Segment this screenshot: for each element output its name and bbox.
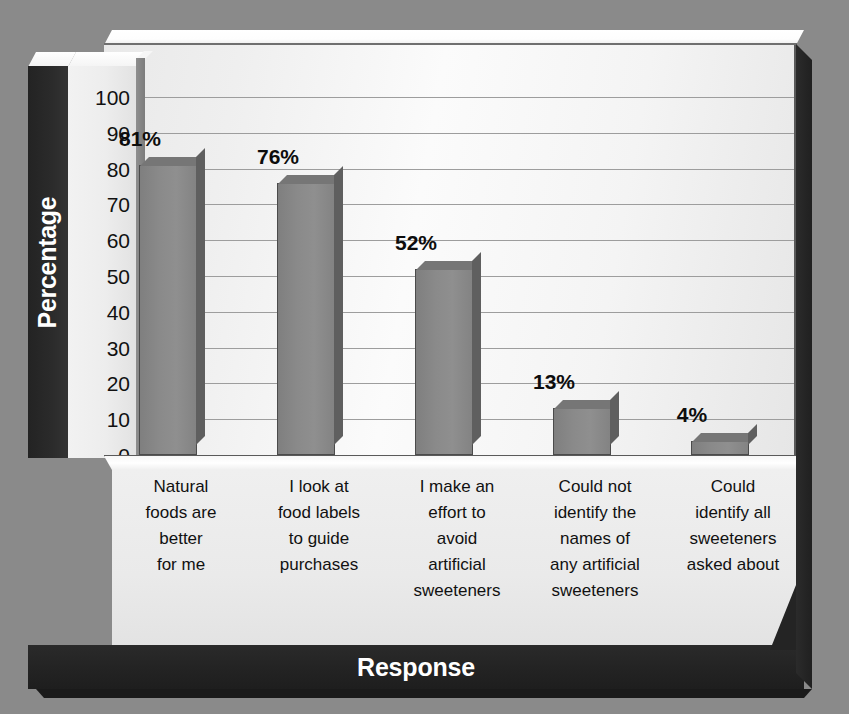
- bar-value-label: 52%: [361, 231, 471, 255]
- category-label-line: better: [112, 526, 250, 552]
- category-label-line: identify the: [526, 500, 664, 526]
- category-label: I make aneffort toavoidartificialsweeten…: [388, 474, 526, 604]
- category-label-line: effort to: [388, 500, 526, 526]
- bar-side-face: [196, 148, 205, 445]
- category-label: Could notidentify thenames ofany artific…: [526, 474, 664, 604]
- category-label-line: asked about: [664, 552, 802, 578]
- category-label-line: Could not: [526, 474, 664, 500]
- bar-value-label: 81%: [85, 127, 195, 151]
- category-label-line: purchases: [250, 552, 388, 578]
- right-side-shadow: [796, 44, 812, 689]
- category-label-line: identify all: [664, 500, 802, 526]
- category-label: Couldidentify allsweetenersasked about: [664, 474, 802, 578]
- bar-value-label: 76%: [223, 145, 333, 169]
- floor-plane: [104, 456, 804, 470]
- category-label-line: artificial: [388, 552, 526, 578]
- category-label-line: food labels: [250, 500, 388, 526]
- y-axis-title-wall-bevel: [28, 52, 76, 67]
- category-label-line: to guide: [250, 526, 388, 552]
- category-label-line: Natural: [112, 474, 250, 500]
- category-label-line: sweeteners: [388, 578, 526, 604]
- category-label-line: any artificial: [526, 552, 664, 578]
- category-label-line: sweeteners: [664, 526, 802, 552]
- bottom-shadow: [36, 689, 812, 698]
- bar-side-face: [472, 252, 481, 445]
- x-axis-title-text: Response: [357, 653, 475, 682]
- bar[interactable]: [139, 165, 197, 455]
- category-label-line: Could: [664, 474, 802, 500]
- bar-value-label: 4%: [637, 403, 747, 427]
- category-label-line: for me: [112, 552, 250, 578]
- category-label-line: I look at: [250, 474, 388, 500]
- bar[interactable]: [415, 269, 473, 455]
- category-label: Naturalfoods arebetterfor me: [112, 474, 250, 578]
- bar-side-face: [610, 391, 619, 445]
- category-label-line: foods are: [112, 500, 250, 526]
- x-axis-title: Response: [28, 645, 804, 689]
- bar-side-face: [748, 424, 757, 445]
- bar-slot: 13%: [526, 44, 664, 456]
- bar[interactable]: [691, 441, 749, 455]
- bar-slot: 4%: [664, 44, 802, 456]
- bar-series: 81%76%52%13%4%: [104, 44, 796, 456]
- category-labels: Naturalfoods arebetterfor meI look atfoo…: [112, 474, 804, 644]
- y-axis-title-text: Percentage: [34, 196, 63, 328]
- category-label-line: avoid: [388, 526, 526, 552]
- bar-value-label: 13%: [499, 370, 609, 394]
- bar-chart: Percentage 1009080706050403020100 81%76%…: [0, 0, 849, 714]
- category-label-line: sweeteners: [526, 578, 664, 604]
- bar-slot: 81%: [112, 44, 250, 456]
- bar-side-face: [334, 166, 343, 445]
- category-label-line: I make an: [388, 474, 526, 500]
- category-label: I look atfood labelsto guidepurchases: [250, 474, 388, 578]
- category-label-line: names of: [526, 526, 664, 552]
- bar[interactable]: [277, 183, 335, 455]
- y-axis-title: Percentage: [28, 66, 68, 458]
- bar[interactable]: [553, 408, 611, 455]
